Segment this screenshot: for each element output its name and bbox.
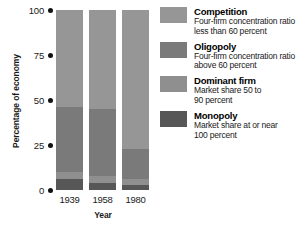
y-tick-100: 100 xyxy=(29,5,53,15)
legend-item-title: Oligopoly xyxy=(194,41,308,52)
bar-1980[interactable] xyxy=(122,10,149,190)
x-tick-label-1958: 1958 xyxy=(89,194,116,205)
legend-text-block: CompetitionFour-firm concentration ratio… xyxy=(194,6,308,37)
bar-segment-competition[interactable] xyxy=(56,10,83,107)
y-tick-dot-icon xyxy=(48,188,53,193)
y-tick-label: 25 xyxy=(34,140,44,151)
y-tick-75: 75 xyxy=(34,50,53,60)
legend-item-monopoly[interactable]: MonopolyMarket share at or near100 perce… xyxy=(160,110,308,141)
legend-item-oligopoly[interactable]: OligopolyFour-firm concentration ratioab… xyxy=(160,41,308,72)
y-tick-dot-icon xyxy=(48,8,53,13)
legend-swatch-icon xyxy=(160,42,187,58)
bar-segment-competition[interactable] xyxy=(89,10,116,109)
legend-swatch-icon xyxy=(160,76,187,92)
legend-text-block: OligopolyFour-firm concentration ratioab… xyxy=(194,41,308,72)
bar-segment-oligopoly[interactable] xyxy=(122,149,149,180)
legend-text-block: MonopolyMarket share at or near100 perce… xyxy=(194,110,308,141)
legend-swatch-icon xyxy=(160,111,187,127)
x-axis-tick-labels: 1939 1958 1980 xyxy=(56,194,150,205)
x-axis-label: Year xyxy=(56,210,150,220)
bar-1958[interactable] xyxy=(89,10,116,190)
bar-segment-dominant-firm[interactable] xyxy=(89,176,116,183)
x-tick-label-1980: 1980 xyxy=(122,194,149,205)
y-tick-dot-icon xyxy=(48,53,53,58)
y-tick-label: 100 xyxy=(29,5,44,16)
y-tick-label: 50 xyxy=(34,95,44,106)
bar-segment-monopoly[interactable] xyxy=(56,179,83,190)
bar-segment-oligopoly[interactable] xyxy=(56,107,83,172)
y-tick-dot-icon xyxy=(48,143,53,148)
y-tick-50: 50 xyxy=(34,95,53,105)
bar-segment-monopoly[interactable] xyxy=(89,183,116,190)
y-tick-label: 0 xyxy=(39,185,44,196)
legend-item-dominant-firm[interactable]: Dominant firmMarket share 50 to90 percen… xyxy=(160,75,308,106)
legend-item-description-line2: 100 percent xyxy=(194,131,308,141)
y-tick-25: 25 xyxy=(34,140,53,150)
bar-group xyxy=(56,10,150,190)
y-tick-dot-icon xyxy=(48,98,53,103)
y-axis: 100 75 50 25 0 xyxy=(20,10,53,190)
chart-figure: Percentage of economy 100 75 50 25 0 xyxy=(0,0,308,245)
legend-text-block: Dominant firmMarket share 50 to90 percen… xyxy=(194,75,308,106)
x-tick-label-1939: 1939 xyxy=(56,194,83,205)
legend-item-description-line2: above 60 percent xyxy=(194,61,308,71)
legend-item-description-line2: less than 60 percent xyxy=(194,27,308,37)
y-tick-0: 0 xyxy=(39,185,53,195)
y-tick-label: 75 xyxy=(34,50,44,61)
bar-segment-competition[interactable] xyxy=(122,10,149,149)
legend-swatch-icon xyxy=(160,7,187,23)
bar-1939[interactable] xyxy=(56,10,83,190)
chart-legend: CompetitionFour-firm concentration ratio… xyxy=(160,6,308,144)
legend-item-competition[interactable]: CompetitionFour-firm concentration ratio… xyxy=(160,6,308,37)
bar-segment-monopoly[interactable] xyxy=(122,185,149,190)
legend-item-description-line2: 90 percent xyxy=(194,96,308,106)
bar-segment-oligopoly[interactable] xyxy=(89,109,116,176)
plot-area: Percentage of economy 100 75 50 25 0 xyxy=(0,0,155,245)
bar-segment-dominant-firm[interactable] xyxy=(56,172,83,179)
